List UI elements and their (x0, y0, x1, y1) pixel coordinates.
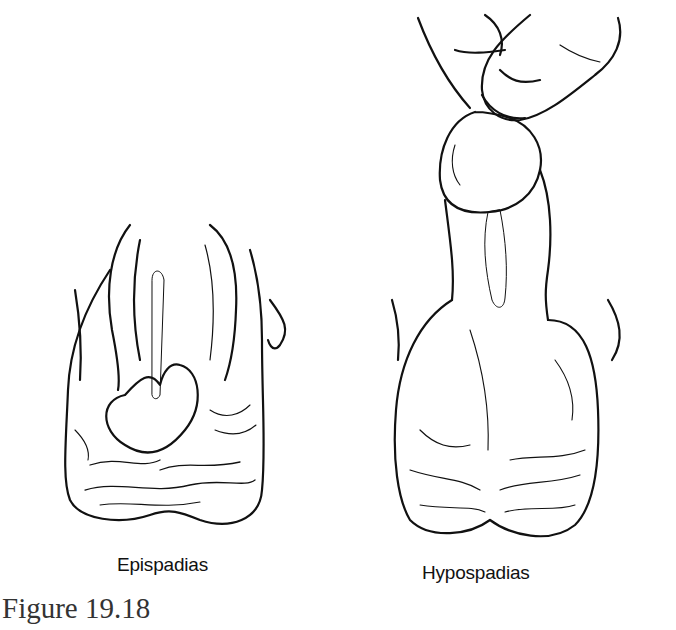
panel-label-epispadias: Epispadias (117, 554, 208, 576)
figure-illustrations (0, 0, 676, 630)
figure-caption: Figure 19.18 (2, 592, 150, 625)
panel-label-hypospadias: Hypospadias (422, 562, 530, 584)
figure: Epispadias Hypospadias Figure 19.18 (0, 0, 676, 630)
epispadias-drawing (65, 225, 285, 524)
hypospadias-drawing (392, 15, 620, 536)
